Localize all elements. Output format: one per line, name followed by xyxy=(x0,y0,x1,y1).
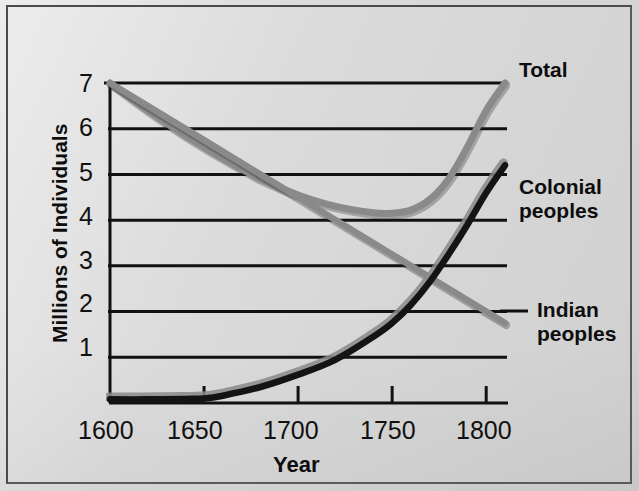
series-label-total: Total xyxy=(519,58,568,82)
y-tick-label-1: 1 xyxy=(79,335,93,360)
y-tick-label-6: 6 xyxy=(79,115,93,140)
series-label-colonial-line2: peoples xyxy=(519,199,598,222)
y-tick-label-5: 5 xyxy=(79,160,93,185)
x-tick-label-1800: 1800 xyxy=(456,418,512,443)
x-tick-label-1750: 1750 xyxy=(360,418,416,443)
y-tick-label-2: 2 xyxy=(79,291,93,316)
y-tick-label-7: 7 xyxy=(79,71,93,96)
series-label-colonial: Colonial peoples xyxy=(519,175,602,222)
x-axis-title: Year xyxy=(273,452,320,478)
x-tick-label-1650: 1650 xyxy=(167,418,223,443)
chart-figure: 7 6 5 4 3 2 1 1600 1650 1700 1750 1800 M… xyxy=(0,0,639,491)
y-tick-label-4: 4 xyxy=(79,204,93,229)
x-tick-label-1600: 1600 xyxy=(78,418,134,443)
x-tick-label-1700: 1700 xyxy=(263,418,319,443)
series-indian-line xyxy=(110,83,505,323)
series-label-indian: Indian peoples xyxy=(537,298,616,345)
series-label-colonial-line1: Colonial xyxy=(519,175,602,198)
series-label-indian-line2: peoples xyxy=(537,322,616,345)
series-total-line xyxy=(110,83,505,214)
y-axis-title: Millions of Individuals xyxy=(48,124,72,343)
y-tick-label-3: 3 xyxy=(79,248,93,273)
series-label-indian-line1: Indian xyxy=(537,298,599,321)
